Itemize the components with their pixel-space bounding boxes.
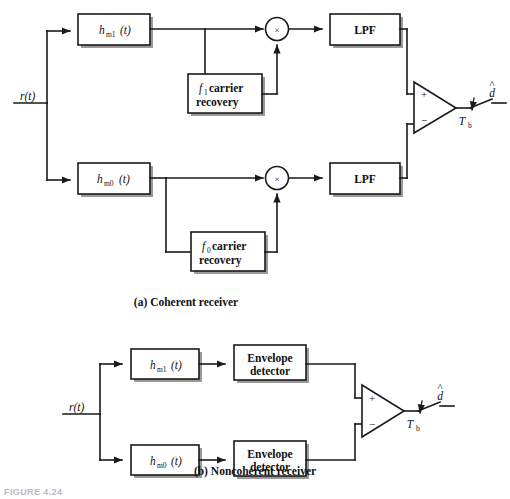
svg-text:Envelope: Envelope (247, 352, 292, 365)
coherent-input-label: r(t) (20, 90, 36, 103)
noncoherent-comparator-minus: − (369, 418, 375, 430)
figure-number-label: FIGURE 4.24 (4, 487, 62, 497)
caption-coherent: (a) Coherent receiver (0, 296, 372, 308)
coherent-lpf-top-label: LPF (354, 24, 376, 36)
svg-text:(t): (t) (120, 24, 131, 37)
svg-text:d: d (437, 390, 443, 402)
svg-text:T: T (459, 115, 467, 127)
coherent-output-label: ^ d (489, 78, 495, 99)
coherent-filter0-box (78, 163, 153, 197)
fsk-receiver-diagram: r(t) h m1 (t) f 1 carrier recovery × × L… (0, 0, 510, 499)
noncoherent-sampler-clock-arrow (420, 401, 422, 413)
svg-text:d: d (489, 87, 495, 99)
coherent-input-wire (14, 31, 70, 180)
svg-text:m1: m1 (106, 30, 116, 39)
svg-text:(t): (t) (119, 173, 130, 186)
svg-text:m1: m1 (157, 365, 167, 374)
svg-text:recovery: recovery (199, 254, 242, 267)
multiplier-bottom-symbol: × (274, 174, 279, 184)
svg-text:Envelope: Envelope (247, 448, 292, 461)
svg-text:b: b (416, 424, 420, 433)
svg-text:h: h (150, 359, 156, 371)
svg-text:b: b (468, 121, 472, 130)
svg-text:carrier: carrier (209, 82, 243, 94)
svg-text:m0: m0 (104, 179, 114, 188)
noncoherent-envelope-top-label: Envelope detector (247, 352, 292, 377)
coherent-comparator-plus: + (421, 88, 427, 100)
svg-text:(t): (t) (171, 359, 182, 372)
svg-text:h: h (99, 24, 105, 36)
svg-text:recovery: recovery (196, 96, 239, 109)
coherent-comparator-minus: − (421, 114, 427, 126)
multiplier-top-symbol: × (274, 25, 279, 35)
coherent-sample-period-label: T b (459, 115, 472, 130)
coherent-carrier1-box (188, 74, 265, 116)
svg-text:h: h (97, 173, 103, 185)
svg-text:carrier: carrier (212, 240, 246, 252)
noncoherent-comparator-plus: + (369, 392, 375, 404)
noncoherent-envelope-top-box (234, 345, 309, 383)
caption-noncoherent: (b) Noncoherent receiver (0, 465, 510, 477)
noncoherent-sample-period-label: T b (407, 418, 420, 433)
noncoherent-output-label: ^ d (437, 381, 443, 402)
coherent-lpf-bottom-label: LPF (354, 173, 376, 185)
svg-text:T: T (407, 418, 415, 430)
coherent-sampler-clock-arrow (472, 98, 474, 110)
noncoherent-input-label: r(t) (69, 401, 85, 414)
coherent-carrier0-box (191, 232, 268, 274)
svg-text:detector: detector (250, 365, 290, 377)
